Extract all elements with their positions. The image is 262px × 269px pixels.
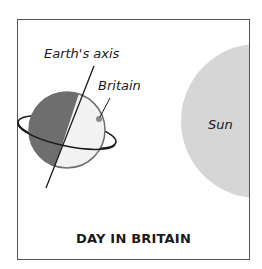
earths-axis-label: Earth's axis bbox=[44, 46, 119, 61]
diagram-title: DAY IN BRITAIN bbox=[17, 231, 250, 246]
britain-label: Britain bbox=[98, 78, 141, 93]
sun-label: Sun bbox=[208, 117, 233, 132]
britain-leader-line bbox=[100, 98, 110, 117]
britain-dot bbox=[96, 116, 102, 122]
earth-shape bbox=[0, 60, 105, 200]
earth-sun-diagram bbox=[0, 0, 262, 269]
